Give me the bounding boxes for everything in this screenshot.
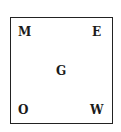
- letter-top-right: E: [92, 26, 101, 38]
- letter-center: G: [56, 65, 66, 77]
- letter-bottom-left: O: [18, 104, 28, 116]
- letter-bottom-right: W: [90, 104, 103, 116]
- letter-top-left: M: [18, 26, 31, 38]
